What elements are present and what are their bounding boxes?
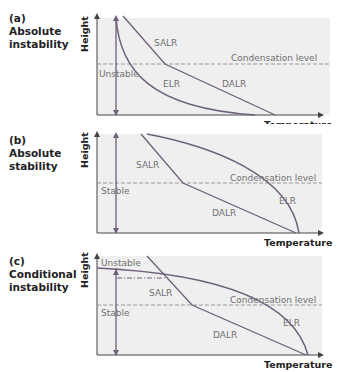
condensation-label: Condensation level (230, 295, 316, 305)
diagram-a: SALR Condensation level Unstable ELR DAL… (0, 0, 337, 124)
y-axis-label: Height (79, 132, 90, 168)
region-label-top: Unstable (101, 258, 141, 268)
panel-b: (b) Absolute stability SALR Condensation… (0, 124, 337, 248)
elr-label: ELR (279, 196, 296, 206)
elr-label: ELR (163, 79, 180, 89)
y-axis-label: Height (79, 252, 90, 288)
region-label: Stable (101, 186, 130, 196)
x-axis-label: Temperature (264, 237, 332, 248)
salr-label: SALR (149, 288, 172, 298)
elr-label: ELR (283, 318, 300, 328)
condensation-label: Condensation level (231, 53, 317, 63)
dalr-label: DALR (212, 208, 236, 218)
panel-a: (a) Absolute instability SALR Condensati… (0, 0, 337, 124)
dalr-label: DALR (222, 79, 246, 89)
condensation-label: Condensation level (230, 173, 316, 183)
diagram-c: Unstable SALR Condensation level Stable … (0, 248, 337, 372)
region-label: Stable (101, 308, 130, 318)
y-axis-label: Height (79, 16, 90, 52)
region-label: Unstable (99, 69, 139, 79)
salr-label: SALR (136, 160, 159, 170)
panel-c: (c) Conditional instability Unstable SAL… (0, 248, 337, 372)
diagram-b: SALR Condensation level Stable ELR DALR … (0, 124, 337, 248)
dalr-label: DALR (213, 330, 237, 340)
x-axis-label: Temperature (264, 359, 332, 370)
salr-label: SALR (154, 38, 177, 48)
